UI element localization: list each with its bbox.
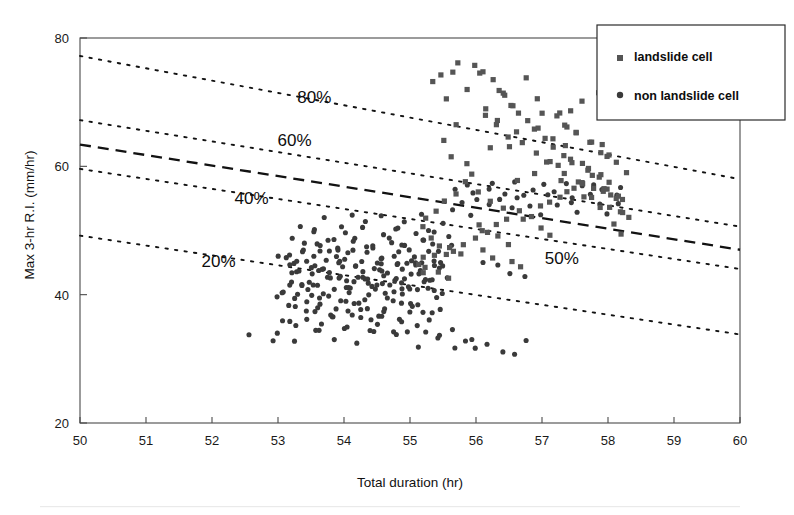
data-point-non-landslide	[275, 331, 280, 336]
x-tick-label: 50	[73, 433, 87, 448]
legend-label-landslide: landslide cell	[634, 50, 713, 64]
legend-box	[597, 25, 785, 120]
data-point-landslide	[476, 189, 481, 194]
data-point-non-landslide	[510, 205, 515, 210]
data-point-non-landslide	[344, 278, 349, 283]
data-point-landslide	[547, 200, 552, 205]
data-point-non-landslide	[317, 296, 322, 301]
data-point-non-landslide	[312, 227, 317, 232]
x-axis-title: Total duration (hr)	[357, 475, 463, 490]
data-point-landslide	[580, 161, 585, 166]
y-tick-label: 80	[55, 31, 69, 46]
data-point-non-landslide	[402, 276, 407, 281]
data-point-landslide	[534, 150, 539, 155]
data-point-landslide	[488, 145, 493, 150]
data-point-landslide	[461, 242, 466, 247]
plot-svg: 5051525354555657585960 20406080 80%60%50…	[0, 0, 794, 515]
legend: landslide cell non landslide cell	[597, 25, 785, 120]
data-point-landslide	[465, 87, 470, 92]
data-point-non-landslide	[304, 259, 309, 264]
data-point-non-landslide	[410, 304, 415, 309]
data-point-non-landslide	[275, 294, 280, 299]
data-point-landslide	[497, 88, 502, 93]
data-point-non-landslide	[426, 249, 431, 254]
data-point-non-landslide	[512, 352, 517, 357]
screenshot-root: 5051525354555657585960 20406080 80%60%50…	[0, 0, 794, 515]
scatter-plot-figure: 5051525354555657585960 20406080 80%60%50…	[0, 0, 794, 515]
data-point-non-landslide	[392, 254, 397, 259]
data-point-landslide	[520, 140, 525, 145]
data-point-non-landslide	[375, 260, 380, 265]
data-point-non-landslide	[381, 232, 386, 237]
data-point-non-landslide	[328, 275, 333, 280]
data-point-non-landslide	[426, 228, 431, 233]
data-point-non-landslide	[325, 238, 330, 243]
data-point-non-landslide	[280, 318, 285, 323]
data-point-non-landslide	[432, 288, 437, 293]
data-point-landslide	[483, 113, 488, 118]
data-point-non-landslide	[416, 345, 421, 350]
data-point-landslide	[454, 122, 459, 127]
data-point-non-landslide	[339, 224, 344, 229]
data-point-landslide	[591, 186, 596, 191]
data-point-non-landslide	[330, 314, 335, 319]
data-point-non-landslide	[393, 226, 398, 231]
data-point-non-landslide	[438, 307, 443, 312]
data-point-non-landslide	[409, 272, 414, 277]
data-point-non-landslide	[363, 219, 368, 224]
data-point-non-landslide	[604, 211, 609, 216]
data-point-non-landslide	[280, 290, 285, 295]
data-point-landslide	[444, 96, 449, 101]
x-tick-label: 60	[733, 433, 747, 448]
data-point-landslide	[561, 153, 566, 158]
data-point-landslide	[458, 251, 463, 256]
data-point-landslide	[501, 206, 506, 211]
data-point-landslide	[480, 69, 485, 74]
data-point-non-landslide	[364, 244, 369, 249]
data-point-non-landslide	[319, 321, 324, 326]
data-point-non-landslide	[495, 262, 500, 267]
data-point-non-landslide	[437, 333, 442, 338]
data-point-non-landslide	[487, 187, 492, 192]
data-point-landslide	[416, 262, 421, 267]
data-point-landslide	[420, 224, 425, 229]
data-point-landslide	[480, 228, 485, 233]
data-point-landslide	[624, 170, 629, 175]
data-point-non-landslide	[338, 298, 343, 303]
data-point-non-landslide	[366, 292, 371, 297]
data-point-landslide	[606, 152, 611, 157]
data-point-landslide	[506, 242, 511, 247]
x-tick-label: 55	[403, 433, 417, 448]
data-point-non-landslide	[271, 338, 276, 343]
x-tick-label: 53	[271, 433, 285, 448]
data-point-non-landslide	[326, 294, 331, 299]
data-point-non-landslide	[294, 259, 299, 264]
data-point-non-landslide	[345, 325, 350, 330]
data-point-non-landslide	[407, 286, 412, 291]
data-point-landslide	[432, 253, 437, 258]
data-point-landslide	[598, 205, 603, 210]
data-point-non-landslide	[318, 243, 323, 248]
data-point-non-landslide	[352, 301, 357, 306]
data-point-landslide	[558, 178, 563, 183]
data-point-non-landslide	[391, 298, 396, 303]
data-point-non-landslide	[370, 243, 375, 248]
data-point-landslide	[600, 142, 605, 147]
data-point-landslide	[529, 214, 534, 219]
data-point-non-landslide	[304, 299, 309, 304]
data-point-non-landslide	[474, 197, 479, 202]
data-point-landslide	[472, 63, 477, 68]
data-point-landslide	[524, 75, 529, 80]
data-point-landslide	[563, 143, 568, 148]
data-point-landslide	[614, 196, 619, 201]
data-point-landslide	[495, 233, 500, 238]
data-point-non-landslide	[345, 308, 350, 313]
data-point-non-landslide	[359, 259, 364, 264]
legend-marker-landslide-icon	[617, 55, 623, 61]
data-point-landslide	[463, 179, 468, 184]
data-point-non-landslide	[292, 296, 297, 301]
data-point-non-landslide	[405, 329, 410, 334]
data-point-landslide	[516, 111, 521, 116]
data-point-landslide	[434, 209, 439, 214]
data-point-non-landslide	[364, 250, 369, 255]
